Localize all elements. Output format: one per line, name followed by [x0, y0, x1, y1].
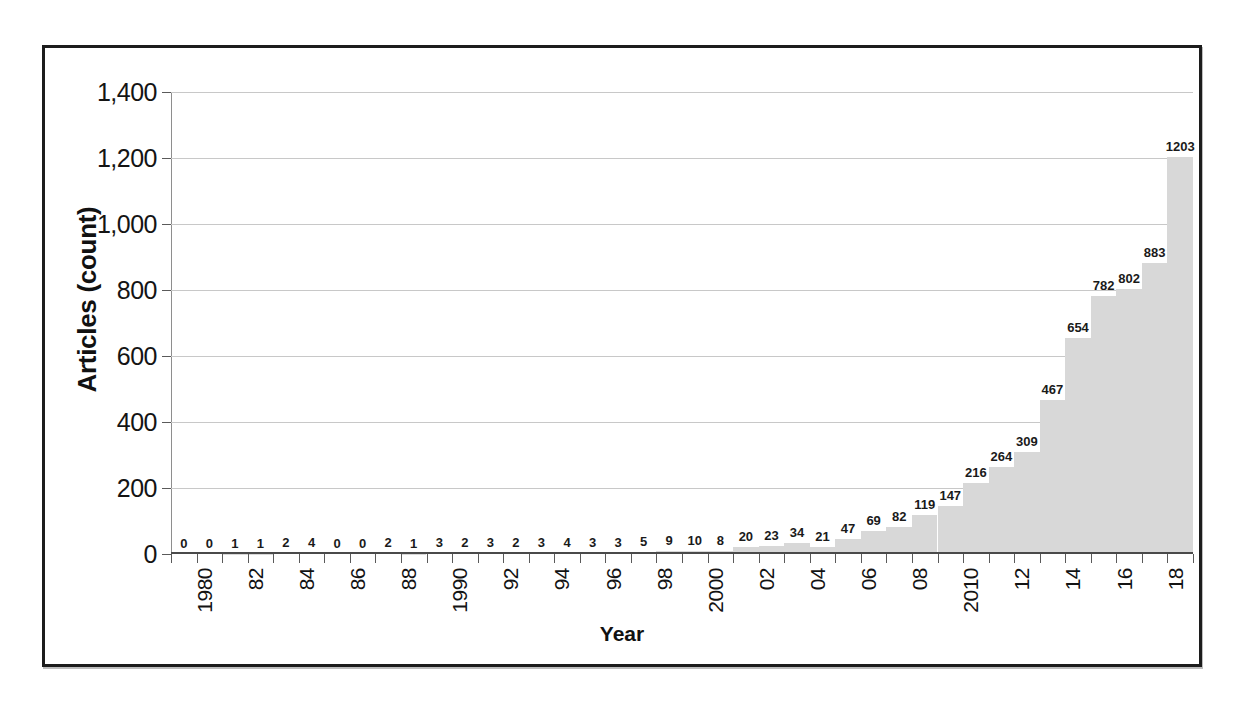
bar-value-label: 309 — [1016, 434, 1038, 449]
bar-slot[interactable]: 4 — [554, 92, 580, 554]
bar-slot[interactable]: 3 — [529, 92, 555, 554]
bar-slot[interactable]: 1203 — [1167, 92, 1193, 554]
x-tick-mark — [248, 554, 249, 563]
bar[interactable] — [963, 483, 989, 554]
bar[interactable] — [1040, 400, 1066, 554]
y-tick-mark — [162, 224, 171, 225]
bar-slot[interactable]: 802 — [1116, 92, 1142, 554]
bar-value-label: 264 — [991, 449, 1013, 464]
x-tick-mark — [299, 554, 300, 563]
bar[interactable] — [1014, 452, 1040, 554]
bar-value-label: 3 — [614, 535, 621, 550]
bar-slot[interactable]: 0 — [197, 92, 223, 554]
bar-slot[interactable]: 23 — [759, 92, 785, 554]
bar-slot[interactable]: 467 — [1040, 92, 1066, 554]
bar-slot[interactable]: 0 — [324, 92, 350, 554]
bar-value-label: 802 — [1118, 271, 1140, 286]
bar[interactable] — [989, 467, 1015, 554]
bar-value-label: 69 — [866, 513, 880, 528]
bar[interactable] — [912, 515, 938, 554]
bar[interactable] — [938, 506, 964, 555]
bar-slot[interactable]: 782 — [1091, 92, 1117, 554]
x-tick-mark — [580, 554, 581, 563]
bar-slot[interactable]: 34 — [784, 92, 810, 554]
y-tick-label: 1,000 — [97, 210, 157, 239]
x-tick-mark — [912, 554, 913, 563]
bar-value-label: 47 — [841, 521, 855, 536]
x-tick-label: 14 — [1061, 568, 1085, 590]
bar-slot[interactable]: 5 — [631, 92, 657, 554]
bar-value-label: 3 — [589, 535, 596, 550]
bar-slot[interactable]: 264 — [989, 92, 1015, 554]
y-tick-mark — [162, 92, 171, 93]
bar[interactable] — [1091, 296, 1117, 554]
figure-canvas: Articles (count) 02004006008001,0001,200… — [0, 0, 1239, 706]
bar-value-label: 119 — [914, 497, 935, 512]
bar-slot[interactable]: 3 — [478, 92, 504, 554]
x-tick-mark — [273, 554, 274, 563]
bar-slot[interactable]: 69 — [861, 92, 887, 554]
bar-slot[interactable]: 2 — [375, 92, 401, 554]
y-tick-label: 1,400 — [97, 78, 157, 107]
x-tick-mark — [1167, 554, 1168, 563]
y-tick-mark — [162, 422, 171, 423]
bar[interactable] — [1116, 289, 1142, 554]
bar-slot[interactable]: 8 — [708, 92, 734, 554]
bar-slot[interactable]: 1 — [248, 92, 274, 554]
bar-slot[interactable]: 883 — [1142, 92, 1168, 554]
x-tick-label: 88 — [397, 568, 421, 590]
bar-slot[interactable]: 21 — [810, 92, 836, 554]
x-tick-label: 92 — [499, 568, 523, 590]
x-tick-label: 82 — [244, 568, 268, 590]
x-tick-mark — [1193, 554, 1194, 563]
bar[interactable] — [886, 527, 912, 554]
bar[interactable] — [1142, 263, 1168, 554]
bar-slot[interactable]: 0 — [171, 92, 197, 554]
bar-slot[interactable]: 47 — [835, 92, 861, 554]
bar-slot[interactable]: 2 — [273, 92, 299, 554]
bar-value-label: 10 — [688, 533, 702, 548]
bar-value-label: 0 — [206, 536, 213, 551]
x-tick-mark — [835, 554, 836, 563]
bar-slot[interactable]: 20 — [733, 92, 759, 554]
bar-slot[interactable]: 0 — [350, 92, 376, 554]
bar-slot[interactable]: 2 — [452, 92, 478, 554]
y-tick-label: 0 — [144, 540, 157, 569]
bar-value-label: 9 — [666, 533, 673, 548]
bar-value-label: 0 — [359, 536, 366, 551]
bar[interactable] — [861, 531, 887, 554]
x-tick-label: 98 — [653, 568, 677, 590]
bar-slot[interactable]: 9 — [656, 92, 682, 554]
bar-slot[interactable]: 10 — [682, 92, 708, 554]
x-tick-label: 16 — [1113, 568, 1137, 590]
bar[interactable] — [1167, 157, 1193, 554]
bar-slot[interactable]: 309 — [1014, 92, 1040, 554]
x-tick-label: 1980 — [193, 568, 217, 613]
bar-value-label: 883 — [1144, 245, 1166, 260]
bar-slot[interactable]: 3 — [605, 92, 631, 554]
x-tick-mark — [810, 554, 811, 563]
bar-value-label: 654 — [1067, 320, 1089, 335]
x-tick-mark — [503, 554, 504, 563]
y-tick-mark — [162, 356, 171, 357]
bar-slot[interactable]: 147 — [938, 92, 964, 554]
x-tick-mark — [1014, 554, 1015, 563]
bar-slot[interactable]: 3 — [427, 92, 453, 554]
bar-slot[interactable]: 216 — [963, 92, 989, 554]
bar-slot[interactable]: 119 — [912, 92, 938, 554]
bar-slot[interactable]: 1 — [401, 92, 427, 554]
bar-slot[interactable]: 82 — [886, 92, 912, 554]
x-tick-mark — [759, 554, 760, 563]
x-tick-mark — [452, 554, 453, 563]
bar-slot[interactable]: 1 — [222, 92, 248, 554]
bar-slot[interactable]: 654 — [1065, 92, 1091, 554]
bar-slot[interactable]: 3 — [580, 92, 606, 554]
x-tick-label: 96 — [602, 568, 626, 590]
bar-slot[interactable]: 2 — [503, 92, 529, 554]
bar-slot[interactable]: 4 — [299, 92, 325, 554]
bar[interactable] — [1065, 338, 1091, 554]
x-tick-mark — [222, 554, 223, 563]
x-tick-label: 06 — [857, 568, 881, 590]
bar-value-label: 82 — [892, 509, 906, 524]
x-tick-mark — [1116, 554, 1117, 563]
